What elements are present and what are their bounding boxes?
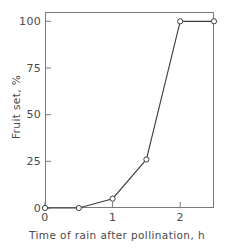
y-axis-ticks: [45, 21, 51, 208]
x-tick-label: 1: [103, 212, 123, 223]
chart-figure: 0255075100 012 Fruit set, % Time of rain…: [0, 0, 234, 249]
data-point-marker: [42, 205, 47, 210]
data-point-marker: [76, 205, 81, 210]
data-point-marker: [110, 196, 115, 201]
y-tick-label: 100: [11, 16, 41, 27]
x-tick-label-group: 012: [0, 212, 234, 226]
data-point-marker: [144, 157, 149, 162]
y-axis-title: Fruit set, %: [10, 47, 22, 167]
plot-area: [45, 12, 214, 208]
x-tick-label: 0: [35, 212, 55, 223]
x-axis-ticks: [45, 202, 180, 208]
x-tick-label: 2: [170, 212, 190, 223]
data-point-markers: [42, 19, 216, 211]
data-series-line: [45, 21, 214, 208]
data-point-marker: [211, 19, 216, 24]
data-point-marker: [178, 19, 183, 24]
x-axis-title: Time of rain after pollination, h: [0, 229, 234, 241]
